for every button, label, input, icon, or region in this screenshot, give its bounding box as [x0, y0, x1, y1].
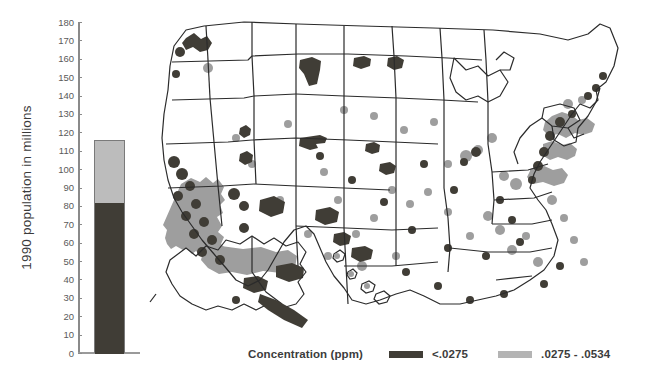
bar-segment-low — [95, 203, 124, 354]
y-tick-mark — [78, 261, 82, 262]
y-tick-mark — [78, 114, 82, 115]
y-tick-label: 120 — [48, 128, 74, 137]
stacked-bar — [94, 140, 125, 353]
y-tick-mark — [78, 40, 82, 41]
y-tick-label: 40 — [48, 275, 74, 284]
y-tick-label: 110 — [48, 146, 74, 155]
y-tick-mark — [78, 206, 82, 207]
legend-title: Concentration (ppm) — [248, 348, 363, 360]
y-tick-label: 140 — [48, 91, 74, 100]
y-tick-label-wrap: 90 — [0, 183, 74, 192]
legend-entry-mid: .0275 - .0534 — [498, 348, 610, 360]
y-tick-label: 100 — [48, 165, 74, 174]
y-tick-mark — [78, 316, 82, 317]
y-tick-mark — [78, 132, 82, 133]
bar-chart-panel: 1990 population in millions 010203040506… — [0, 0, 150, 384]
y-tick-mark — [78, 188, 82, 189]
y-tick-label-wrap: 80 — [0, 201, 74, 210]
y-tick-mark — [78, 335, 82, 336]
y-tick-label-wrap: 110 — [0, 146, 74, 155]
bar-segment-mid — [95, 141, 124, 204]
y-tick-mark — [78, 96, 82, 97]
y-tick-label: 150 — [48, 73, 74, 82]
y-tick-label-wrap: 50 — [0, 257, 74, 266]
y-tick-label-wrap: 20 — [0, 312, 74, 321]
y-tick-label-wrap: 160 — [0, 54, 74, 63]
y-tick-label: 30 — [48, 293, 74, 302]
y-tick-label: 0 — [48, 349, 74, 358]
y-tick-mark — [78, 298, 82, 299]
legend-swatch-low — [389, 351, 423, 358]
y-tick-label-wrap: 130 — [0, 109, 74, 118]
y-tick-mark — [78, 22, 82, 23]
y-tick-label-wrap: 10 — [0, 330, 74, 339]
y-tick-label: 180 — [48, 18, 74, 27]
y-tick-label: 90 — [48, 183, 74, 192]
legend-entry-low: <.0275 — [389, 348, 468, 360]
y-tick-label-wrap: 140 — [0, 91, 74, 100]
map-legend: Concentration (ppm) <.0275 .0275 - .0534 — [248, 344, 640, 364]
y-tick-label-wrap: 150 — [0, 73, 74, 82]
y-tick-label: 170 — [48, 36, 74, 45]
y-tick-label-wrap: 60 — [0, 238, 74, 247]
y-tick-mark — [78, 169, 82, 170]
figure-root: 1990 population in millions 010203040506… — [0, 0, 655, 384]
legend-label-low: <.0275 — [432, 348, 468, 360]
y-tick-label-wrap: 120 — [0, 128, 74, 137]
y-tick-label-wrap: 170 — [0, 36, 74, 45]
y-tick-mark — [78, 224, 82, 225]
y-tick-label-wrap: 180 — [0, 18, 74, 27]
y-tick-label-wrap: 0 — [0, 349, 74, 358]
y-tick-label: 130 — [48, 109, 74, 118]
y-tick-label: 160 — [48, 54, 74, 63]
y-tick-label: 70 — [48, 220, 74, 229]
y-tick-mark — [78, 59, 82, 60]
legend-label-mid: .0275 - .0534 — [541, 348, 610, 360]
y-tick-label: 50 — [48, 257, 74, 266]
legend-swatch-mid — [498, 351, 532, 358]
us-map-svg — [148, 4, 655, 344]
y-tick-mark — [78, 77, 82, 78]
y-tick-label: 20 — [48, 312, 74, 321]
y-tick-label-wrap: 30 — [0, 293, 74, 302]
y-tick-label: 10 — [48, 330, 74, 339]
us-map — [148, 4, 655, 344]
y-tick-mark — [78, 353, 82, 354]
map-inset-alaska-shading — [232, 294, 308, 328]
y-tick-mark — [78, 279, 82, 280]
y-tick-label: 80 — [48, 201, 74, 210]
y-tick-label: 60 — [48, 238, 74, 247]
y-tick-mark — [78, 243, 82, 244]
y-tick-label-wrap: 40 — [0, 275, 74, 284]
y-tick-label-wrap: 70 — [0, 220, 74, 229]
y-tick-mark — [78, 151, 82, 152]
y-tick-label-wrap: 100 — [0, 165, 74, 174]
